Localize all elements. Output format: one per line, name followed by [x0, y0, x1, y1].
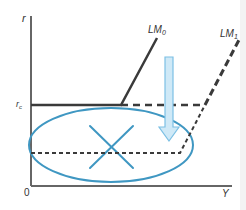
rc-label-sub: c — [19, 104, 22, 110]
cross-mark-icon — [90, 126, 133, 168]
y-axis-label: r — [22, 12, 27, 24]
lm1-label: LM1 — [220, 28, 238, 40]
lm0-curve — [31, 38, 157, 105]
axes — [31, 16, 232, 186]
lowered-rate-dotted-path — [31, 105, 205, 153]
origin-label: 0 — [24, 187, 30, 198]
down-arrow-icon — [159, 57, 179, 141]
lm0-label: LM0 — [148, 24, 166, 36]
lm-curve-diagram: r 0 Y rc LM0 LM1 — [0, 0, 246, 210]
rc-label: rc — [16, 99, 22, 110]
lm1-label-sub: 1 — [234, 33, 238, 40]
x-axis-label: Y — [222, 188, 230, 199]
lm1-curve — [205, 38, 240, 105]
lm1-label-main: LM — [220, 28, 235, 39]
lm0-label-main: LM — [148, 24, 163, 35]
lm0-label-sub: 0 — [162, 29, 166, 36]
